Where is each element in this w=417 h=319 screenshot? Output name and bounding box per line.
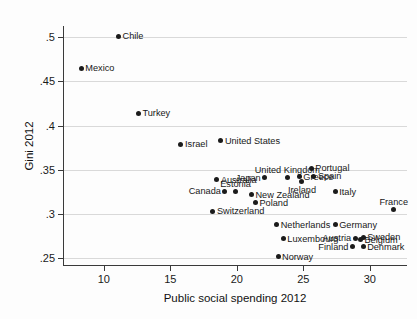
data-point <box>274 222 279 227</box>
data-point <box>276 254 281 259</box>
x-axis-tick-label: 25 <box>297 273 309 285</box>
y-axis-tick <box>58 170 64 171</box>
x-axis-tick <box>104 265 105 271</box>
y-axis-tick-label: .45 <box>40 75 55 87</box>
data-point <box>218 138 223 143</box>
data-point <box>358 237 363 242</box>
data-point <box>285 175 290 180</box>
x-axis-tick-label: 10 <box>98 273 110 285</box>
y-axis-tick-label: .35 <box>40 164 55 176</box>
data-point <box>116 34 121 39</box>
data-point-label: Chile <box>123 31 144 41</box>
x-axis-tick-label: 15 <box>164 273 176 285</box>
data-point <box>253 200 258 205</box>
y-axis-tick <box>58 126 64 127</box>
data-point-label: Turkey <box>142 108 170 118</box>
y-axis-tick <box>58 214 64 215</box>
x-axis-tick-label: 20 <box>231 273 243 285</box>
data-point-label: Netherlands <box>281 220 331 230</box>
y-axis-tick-label: .3 <box>46 208 55 220</box>
plot-area: .25.3.35.4.45.51015202530ChileMexicoTurk… <box>63 26 407 266</box>
x-axis-tick <box>237 265 238 271</box>
data-point <box>249 192 254 197</box>
y-axis-title: Gini 2012 <box>23 121 35 170</box>
y-axis-tick-label: .4 <box>46 120 55 132</box>
data-point-label: Greece <box>303 172 333 182</box>
data-point <box>136 111 141 116</box>
gridline <box>64 126 407 127</box>
data-point <box>309 166 314 171</box>
data-point-label: Israel <box>185 139 207 149</box>
x-axis-title: Public social spending 2012 <box>63 292 407 304</box>
data-point <box>333 189 338 194</box>
x-axis-tick-label: 30 <box>364 273 376 285</box>
x-axis-tick <box>170 265 171 271</box>
data-point-label: Switzerland <box>217 206 265 216</box>
x-axis-tick <box>303 265 304 271</box>
data-point <box>214 177 219 182</box>
data-point-label: Mexico <box>85 63 114 73</box>
data-point <box>233 189 238 194</box>
data-point-label: France <box>379 197 408 207</box>
data-point-label: Finland <box>318 242 348 252</box>
scatter-plot-figure: .25.3.35.4.45.51015202530ChileMexicoTurk… <box>0 0 417 319</box>
data-point <box>391 207 396 212</box>
x-axis-tick <box>370 265 371 271</box>
y-axis-tick <box>58 81 64 82</box>
gridline <box>64 170 407 171</box>
data-point <box>178 142 183 147</box>
y-axis-tick-label: .5 <box>46 31 55 43</box>
data-point <box>79 66 84 71</box>
data-point <box>262 175 267 180</box>
data-point-label: Canada <box>189 186 221 196</box>
gridline <box>64 81 407 82</box>
data-point <box>222 189 227 194</box>
data-point-label: Denmark <box>367 242 404 252</box>
data-point <box>353 236 358 241</box>
gridline <box>64 258 407 259</box>
y-axis-tick <box>58 37 64 38</box>
data-point-label: Italy <box>339 187 356 197</box>
y-axis-tick-label: .25 <box>40 252 55 264</box>
data-point <box>299 179 304 184</box>
data-point-label: Germany <box>339 220 377 230</box>
data-point-label: Norway <box>282 252 313 262</box>
data-point <box>361 244 366 249</box>
data-point-label: Estonia <box>220 179 251 189</box>
data-point <box>281 236 286 241</box>
data-point-label: United States <box>225 136 280 146</box>
y-axis-tick <box>58 258 64 259</box>
data-point <box>350 244 355 249</box>
data-point <box>333 222 338 227</box>
